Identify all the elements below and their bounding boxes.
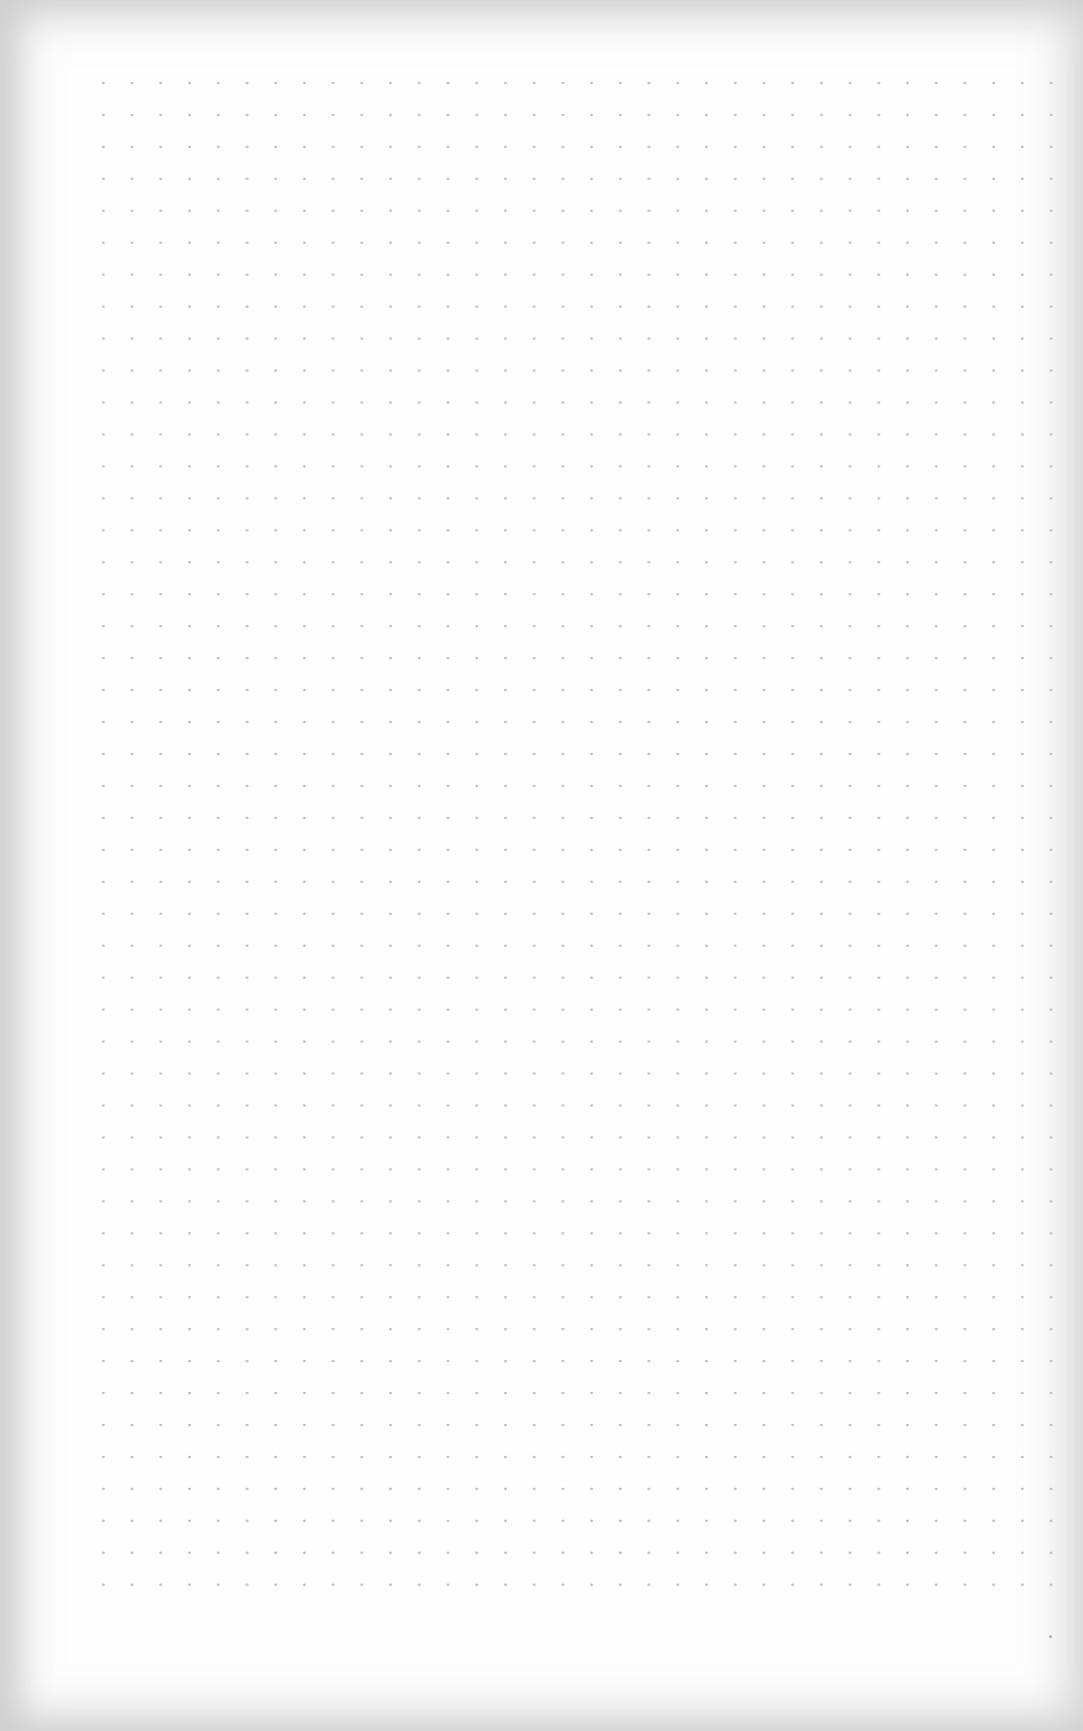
dot-grid-paper-sheet xyxy=(0,0,1083,1731)
dot-grid xyxy=(89,67,1073,1609)
stray-mark xyxy=(1049,1635,1052,1638)
